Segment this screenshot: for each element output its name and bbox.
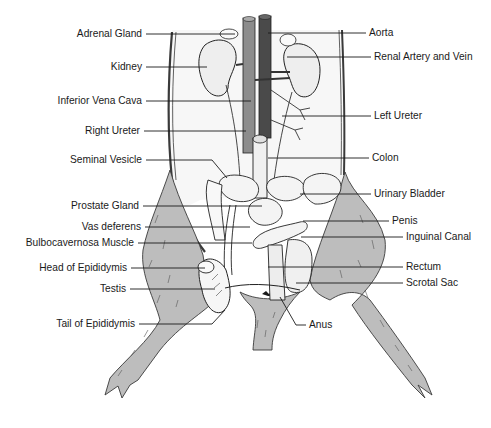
label-urinary-bladder: Urinary Bladder bbox=[374, 188, 445, 200]
label-head-of-epididymis: Head of Epididymis bbox=[39, 262, 127, 274]
label-testis: Testis bbox=[100, 283, 126, 295]
label-adrenal-gland: Adrenal Gland bbox=[77, 28, 142, 40]
label-aorta: Aorta bbox=[369, 27, 393, 39]
label-inguinal-canal: Inguinal Canal bbox=[406, 231, 471, 243]
anatomy-illustration bbox=[0, 0, 491, 428]
label-tail-of-epididymis: Tail of Epididymis bbox=[56, 318, 135, 330]
label-bulbocavernosa-muscle: Bulbocavernosa Muscle bbox=[26, 237, 134, 249]
label-colon: Colon bbox=[372, 152, 399, 164]
label-left-ureter: Left Ureter bbox=[374, 110, 422, 122]
label-renal-artery-and-vein: Renal Artery and Vein bbox=[374, 51, 473, 63]
label-kidney: Kidney bbox=[111, 61, 142, 73]
label-seminal-vesicle: Seminal Vesicle bbox=[70, 154, 142, 166]
label-scrotal-sac: Scrotal Sac bbox=[406, 277, 458, 289]
label-inferior-vena-cava: Inferior Vena Cava bbox=[58, 95, 142, 107]
label-rectum: Rectum bbox=[406, 261, 441, 273]
label-prostate-gland: Prostate Gland bbox=[71, 200, 139, 212]
label-anus: Anus bbox=[309, 319, 332, 331]
label-right-ureter: Right Ureter bbox=[85, 125, 140, 137]
label-penis: Penis bbox=[392, 215, 417, 227]
label-vas-deferens: Vas deferens bbox=[82, 221, 141, 233]
